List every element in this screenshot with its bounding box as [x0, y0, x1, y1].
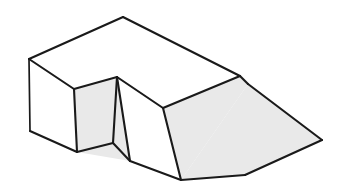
figure-canvas: [0, 0, 354, 194]
line-drawing-svg: [0, 0, 354, 194]
left-vertical-edge: [29, 59, 30, 131]
